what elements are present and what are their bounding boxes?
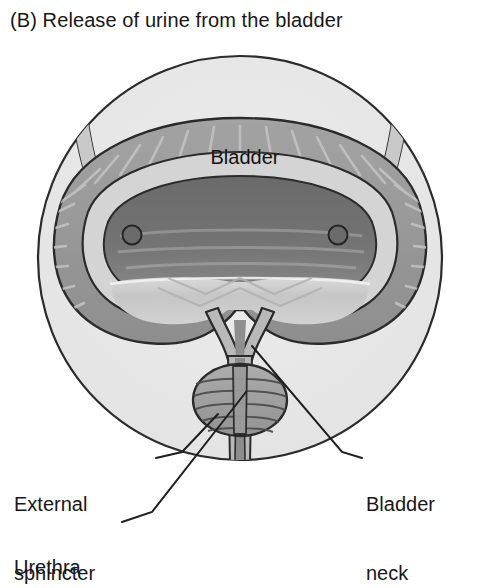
ureteral-orifice-right — [329, 226, 348, 245]
label-bladder-neck: Bladder neck — [366, 447, 435, 588]
label-urethra: Urethra — [14, 510, 81, 588]
label-bladder-neck-line1: Bladder — [366, 493, 435, 516]
ureteral-orifice-left — [123, 226, 142, 245]
label-bladder-neck-line2: neck — [366, 562, 435, 585]
label-urethra-line1: Urethra — [14, 556, 81, 579]
label-bladder: Bladder — [0, 146, 490, 169]
